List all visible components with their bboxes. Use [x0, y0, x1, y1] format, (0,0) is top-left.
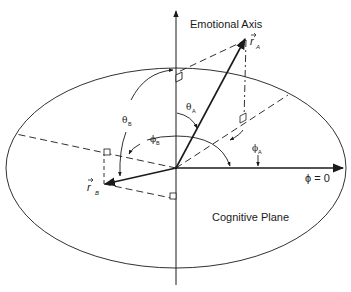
plane-projection-line-a — [176, 95, 288, 168]
theta-a-arc — [177, 113, 197, 128]
phi-a-label: ϕ A — [252, 143, 262, 155]
r-a-label: r A — [250, 33, 260, 50]
theta-a-label: θ A — [186, 102, 196, 114]
svg-text:r: r — [87, 181, 92, 193]
r-b-axis-projection — [104, 184, 176, 199]
theta-b-arc-lower — [120, 132, 126, 176]
svg-text:θ: θ — [186, 102, 191, 112]
svg-text:A: A — [192, 108, 196, 114]
right-angle-marker-axis-a — [176, 72, 182, 82]
svg-text:B: B — [128, 121, 132, 127]
theta-b-label: θ B — [122, 115, 132, 127]
svg-text:B: B — [95, 190, 99, 196]
svg-text:A: A — [258, 149, 262, 155]
theta-b-arc-upper — [131, 70, 173, 100]
vector-r-b — [105, 168, 176, 184]
cognitive-plane-label: Cognitive Plane — [212, 211, 289, 223]
r-a-vertical-projection — [244, 40, 246, 120]
right-angle-marker-plane-a — [240, 113, 246, 123]
right-angle-marker-plane-b — [104, 149, 110, 155]
svg-text:B: B — [156, 140, 160, 146]
spherical-coordinate-diagram: Emotional Axis Cognitive Plane ϕ = 0 r A… — [0, 0, 351, 292]
phi-b-arrow — [129, 144, 140, 154]
emotional-axis-label: Emotional Axis — [190, 18, 263, 30]
svg-text:θ: θ — [122, 115, 127, 125]
phi-zero-label: ϕ = 0 — [305, 172, 330, 184]
origin-point — [175, 167, 177, 169]
phi-b-label: ϕ B — [150, 134, 160, 146]
r-b-label: r B — [87, 178, 99, 196]
svg-text:A: A — [255, 44, 260, 50]
right-angle-marker-axis-b — [170, 193, 176, 199]
